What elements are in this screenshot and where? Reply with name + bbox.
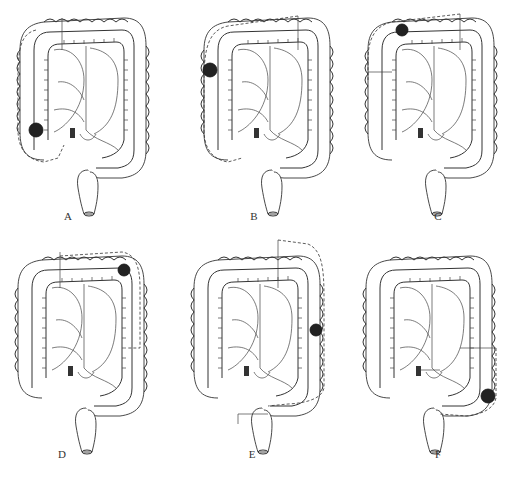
tumor-icon [29, 123, 43, 137]
colon-diagram-d [0, 238, 168, 458]
panel-label-f: F [428, 448, 448, 460]
tumor-icon [118, 264, 130, 276]
panel-d: D [0, 238, 168, 476]
colon-diagram-e [168, 238, 336, 458]
panel-label-e: E [242, 448, 262, 460]
tumor-icon [310, 324, 322, 336]
colon-diagram-c [336, 0, 504, 220]
panel-label-c: C [428, 210, 448, 222]
panel-b: B [168, 0, 336, 238]
tumor-icon [396, 24, 408, 36]
colon-diagram-f [336, 238, 504, 458]
panel-label-d: D [52, 448, 72, 460]
panel-e: E [168, 238, 336, 476]
panel-a: A [0, 0, 168, 238]
panel-label-a: A [58, 210, 78, 222]
colon-diagram-a [0, 0, 168, 220]
tumor-icon [203, 63, 217, 77]
tumor-icon [481, 389, 495, 403]
panel-c: C [336, 0, 504, 238]
panel-label-b: B [244, 210, 264, 222]
colon-diagram-b [168, 0, 336, 220]
panel-f: F [336, 238, 504, 476]
